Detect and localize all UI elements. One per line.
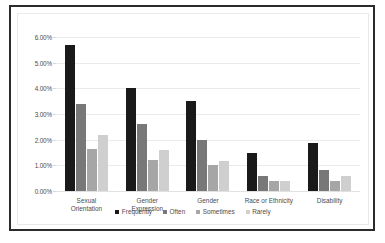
bar: [87, 149, 97, 191]
x-axis-category-label: Gender: [197, 197, 218, 205]
y-axis-tick-label: 0.00%: [35, 188, 52, 195]
bar: [186, 101, 196, 191]
gridline: [56, 191, 360, 192]
bars-group: [56, 37, 360, 191]
bar: [269, 181, 279, 191]
x-axis-label-line: Gender: [197, 197, 218, 205]
bar: [197, 140, 207, 191]
bar: [308, 143, 318, 191]
legend-swatch-icon: [196, 210, 200, 214]
legend-label: Frequently: [122, 208, 152, 215]
chart-legend: FrequentlyOftenSometimesRarely: [18, 208, 368, 215]
y-axis-tick-label: 6.00%: [35, 34, 52, 41]
bar: [258, 176, 268, 191]
bar: [247, 153, 257, 191]
legend-item[interactable]: Rarely: [246, 208, 271, 215]
bar: [159, 150, 169, 191]
y-axis-tick-label: 2.00%: [35, 136, 52, 143]
bar: [330, 181, 340, 191]
y-axis-tick-label: 1.00%: [35, 162, 52, 169]
chart-outer-frame: 0.00%1.00%2.00%3.00%4.00%5.00%6.00% Sexu…: [9, 5, 375, 231]
legend-label: Often: [170, 208, 186, 215]
y-axis-tick-label: 5.00%: [35, 59, 52, 66]
x-axis-category-label: Race or Ethnicity: [245, 197, 293, 205]
legend-item[interactable]: Sometimes: [196, 208, 234, 215]
bar-group: [117, 37, 178, 191]
bar: [219, 161, 229, 191]
legend-label: Sometimes: [203, 208, 235, 215]
legend-item[interactable]: Frequently: [115, 208, 152, 215]
bar-group: [299, 37, 360, 191]
bar: [137, 124, 147, 191]
y-axis-tick-label: 4.00%: [35, 85, 52, 92]
y-axis-tick-label: 3.00%: [35, 111, 52, 118]
bar-group: [238, 37, 299, 191]
bar-group: [178, 37, 239, 191]
y-axis-tickmark: [53, 191, 56, 192]
bar-group: [56, 37, 117, 191]
bar: [280, 181, 290, 191]
bar: [65, 45, 75, 191]
legend-label: Rarely: [252, 208, 270, 215]
bar: [208, 165, 218, 191]
x-axis-category-label: Disability: [317, 197, 343, 205]
legend-swatch-icon: [246, 210, 250, 214]
bar: [341, 176, 351, 191]
chart-plot-container: 0.00%1.00%2.00%3.00%4.00%5.00%6.00% Sexu…: [17, 13, 369, 225]
bar: [76, 104, 86, 191]
x-axis-label-line: Disability: [317, 197, 343, 205]
bar: [319, 170, 329, 191]
legend-item[interactable]: Often: [163, 208, 185, 215]
legend-swatch-icon: [163, 210, 167, 214]
legend-swatch-icon: [115, 210, 119, 214]
x-axis-label-line: Sexual: [71, 197, 102, 205]
x-axis-label-line: Gender: [131, 197, 163, 205]
bar: [98, 135, 108, 191]
bar: [126, 88, 136, 191]
plot-area: 0.00%1.00%2.00%3.00%4.00%5.00%6.00% Sexu…: [56, 37, 360, 191]
bar: [148, 160, 158, 191]
x-axis-label-line: Race or Ethnicity: [245, 197, 293, 205]
